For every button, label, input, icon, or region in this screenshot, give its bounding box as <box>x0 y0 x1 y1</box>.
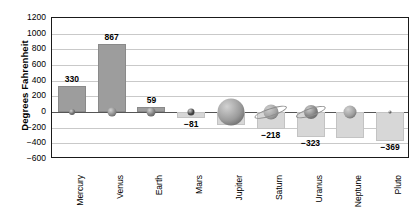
planet-icon <box>69 109 75 115</box>
bar[interactable] <box>98 44 126 112</box>
x-tick-label-wrap: Neptune <box>353 159 363 207</box>
x-tick-label: Mars <box>194 175 204 207</box>
bar-series: 33086759−81−218−323−369 <box>52 18 408 157</box>
bar-slot: −218 <box>251 18 291 157</box>
bar-slot: −81 <box>171 18 211 157</box>
bar-slot <box>211 18 251 157</box>
planet-icon <box>147 108 156 117</box>
y-tick-label: 800 <box>6 44 46 53</box>
bar-slot: −369 <box>370 18 409 157</box>
planet-icon <box>107 108 116 117</box>
bar-value-label: −218 <box>261 131 280 140</box>
x-tick-label-wrap: Venus <box>115 159 125 207</box>
y-tick-label: −600 <box>6 154 46 163</box>
plot-area: 33086759−81−218−323−369 <box>51 17 409 158</box>
bar-slot <box>330 18 370 157</box>
y-tick-label: 200 <box>6 91 46 100</box>
x-tick-label: Neptune <box>353 175 363 207</box>
x-tick-label: Venus <box>115 175 125 207</box>
x-tick-label: Jupiter <box>234 175 244 207</box>
x-tick-label-wrap: Pluto <box>393 159 403 207</box>
bar-value-label: −323 <box>301 139 320 148</box>
y-tick-label: 0 <box>6 107 46 116</box>
bar[interactable] <box>376 112 404 141</box>
planet-icon <box>344 106 357 119</box>
bar-value-label: −369 <box>381 143 400 152</box>
x-tick-label-wrap: Earth <box>154 159 164 207</box>
planet-icon <box>217 99 244 126</box>
y-tick-label: 600 <box>6 60 46 69</box>
y-tick-label: −200 <box>6 123 46 132</box>
planet-icon <box>389 111 392 114</box>
y-tick-label: 1000 <box>6 29 46 38</box>
bar-slot: 867 <box>92 18 132 157</box>
y-tick-label: 1200 <box>6 13 46 22</box>
bar-value-label: 867 <box>105 33 119 42</box>
bar-value-label: 330 <box>65 75 79 84</box>
bar-value-label: −81 <box>184 120 198 129</box>
planet-temperature-bar-chart: Degrees Fahrenheit 120010008006004002000… <box>0 0 414 207</box>
planet-icon <box>263 105 278 120</box>
bar-slot: 330 <box>52 18 92 157</box>
y-tick-label: 400 <box>6 76 46 85</box>
bar-slot: −323 <box>291 18 331 157</box>
x-tick-label-wrap: Jupiter <box>234 159 244 207</box>
x-tick-label: Saturn <box>274 175 284 207</box>
x-tick-label-wrap: Saturn <box>274 159 284 207</box>
x-tick-label-wrap: Uranus <box>314 159 324 207</box>
x-tick-label-wrap: Mars <box>194 159 204 207</box>
x-tick-label: Earth <box>154 175 164 207</box>
x-axis-category-labels: MercuryVenusEarthMarsJupiterSaturnUranus… <box>51 159 409 207</box>
planet-icon <box>188 109 195 116</box>
x-tick-label: Pluto <box>393 175 403 207</box>
x-tick-label-wrap: Mercury <box>75 159 85 207</box>
y-tick-label: −400 <box>6 138 46 147</box>
bar-slot: 59 <box>132 18 172 157</box>
bar-value-label: 59 <box>147 96 156 105</box>
planet-icon <box>304 105 318 119</box>
x-tick-label: Uranus <box>314 175 324 207</box>
x-tick-label: Mercury <box>75 175 85 207</box>
